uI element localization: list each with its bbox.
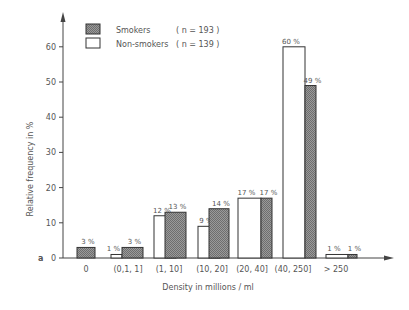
y-tick-label: 40 xyxy=(46,113,56,122)
bar-smokers xyxy=(209,209,229,258)
panel-label: a xyxy=(38,254,43,263)
legend: Smokers( n = 193 )Non-smokers( n = 139 ) xyxy=(86,24,219,49)
bar-smokers xyxy=(122,247,143,258)
bar-smokers xyxy=(348,254,357,258)
bar-smokers xyxy=(165,212,186,258)
y-tick-label: 10 xyxy=(46,219,56,228)
legend-label-nonsmokers: Non-smokers xyxy=(116,40,168,49)
bar-nonsmokers xyxy=(283,47,305,258)
legend-n-smokers: ( n = 193 ) xyxy=(176,26,219,35)
bar-label-smokers: 17 % xyxy=(260,189,278,197)
bar-smokers xyxy=(77,247,95,258)
legend-swatch-nonsmokers xyxy=(86,38,100,48)
bar-nonsmokers xyxy=(238,198,261,258)
legend-n-nonsmokers: ( n = 139 ) xyxy=(176,40,219,49)
legend-label-smokers: Smokers xyxy=(116,26,151,35)
x-axis-arrow-icon xyxy=(384,256,394,261)
bar-nonsmokers xyxy=(111,254,122,258)
bar-chart: 0102030405060Relative frequency in %Dens… xyxy=(0,0,409,310)
bar-label-smokers: 3 % xyxy=(128,238,142,246)
bar-label-nonsmokers: 1 % xyxy=(107,245,121,253)
bar-label-nonsmokers: 1 % xyxy=(327,245,341,253)
y-axis-arrow-icon xyxy=(61,12,66,22)
bars: 3 %1 %3 %12 %13 %9 %14 %17 %17 %60 %49 %… xyxy=(77,38,362,258)
x-tick-label: (0,1, 1] xyxy=(113,265,142,274)
x-axis-label: Density in millions / ml xyxy=(162,283,253,292)
bar-label-nonsmokers: 17 % xyxy=(238,189,256,197)
x-tick-label: 0 xyxy=(83,265,88,274)
bar-label-smokers: 13 % xyxy=(169,203,187,211)
x-tick-label: (10, 20] xyxy=(196,265,228,274)
bar-smokers xyxy=(305,86,316,258)
y-tick-label: 20 xyxy=(46,184,56,193)
x-tick-label: (20, 40] xyxy=(236,265,268,274)
y-tick-label: 30 xyxy=(46,148,56,157)
legend-swatch-smokers xyxy=(86,24,100,34)
bar-nonsmokers xyxy=(326,254,348,258)
x-tick-label: > 250 xyxy=(324,265,349,274)
bar-label-smokers: 14 % xyxy=(212,200,230,208)
bar-label-nonsmokers: 60 % xyxy=(282,38,300,46)
bar-label-smokers: 49 % xyxy=(304,77,322,85)
y-tick-label: 0 xyxy=(51,254,56,263)
x-tick-label: (40, 250] xyxy=(275,265,312,274)
bar-label-smokers: 3 % xyxy=(81,238,95,246)
x-tick-label: (1, 10] xyxy=(156,265,183,274)
y-axis-label: Relative frequency in % xyxy=(26,121,35,216)
y-tick-label: 60 xyxy=(46,43,56,52)
bar-label-smokers: 1 % xyxy=(348,245,362,253)
bar-smokers xyxy=(261,198,272,258)
y-tick-label: 50 xyxy=(46,78,56,87)
